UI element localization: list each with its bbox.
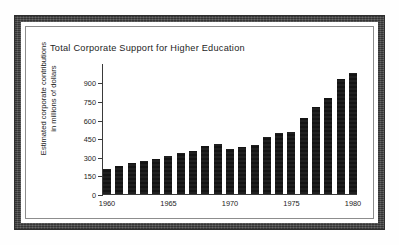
x-tick-label: 1975 (283, 199, 299, 208)
bar (251, 145, 259, 194)
y-tick-label: 450 (84, 135, 96, 144)
bar-series (103, 71, 357, 194)
bar (263, 137, 271, 194)
x-tick-label: 1960 (99, 199, 115, 208)
bar (189, 151, 197, 194)
y-axis-label-line1: Estimated corporate contributions (39, 42, 48, 155)
y-axis-label-line2: in millions of dollars (49, 39, 59, 159)
bar (177, 153, 185, 194)
frame-inner-hairline: Total Corporate Support for Higher Educa… (25, 26, 374, 219)
bar (201, 146, 209, 194)
bar (300, 118, 308, 194)
x-tick-label: 1970 (222, 199, 238, 208)
bar (103, 169, 111, 194)
bar (238, 147, 246, 194)
plot-area: 0150300450600750900 19601965197019751980 (102, 71, 357, 195)
bar (128, 163, 136, 194)
decorative-outer-frame: Total Corporate Support for Higher Educa… (14, 15, 385, 230)
bar (214, 144, 222, 194)
bar (337, 79, 345, 194)
x-tick-label: 1965 (160, 199, 176, 208)
bar (115, 166, 123, 194)
bar (324, 98, 332, 194)
bar (312, 107, 320, 194)
y-tick-label: 300 (84, 153, 96, 162)
y-tick-label: 150 (84, 172, 96, 181)
y-axis-label: Estimated corporate contributions in mil… (39, 39, 58, 159)
bar (164, 156, 172, 194)
y-tick-mark (98, 195, 103, 196)
chart-figure: Total Corporate Support for Higher Educa… (26, 27, 373, 218)
chart-title: Total Corporate Support for Higher Educa… (50, 43, 245, 53)
bar (152, 159, 160, 194)
x-axis-line (102, 194, 357, 195)
bar (349, 73, 357, 194)
y-tick-label: 600 (84, 116, 96, 125)
y-tick-label: 900 (84, 79, 96, 88)
bar (275, 133, 283, 194)
x-tick-label: 1980 (345, 199, 361, 208)
frame-white-gap: Total Corporate Support for Higher Educa… (21, 22, 378, 223)
bar (226, 149, 234, 194)
bar (287, 132, 295, 194)
y-tick-label: 750 (84, 98, 96, 107)
chart-page: Total Corporate Support for Higher Educa… (0, 0, 399, 245)
y-tick-label: 0 (92, 191, 96, 200)
bar (140, 161, 148, 194)
